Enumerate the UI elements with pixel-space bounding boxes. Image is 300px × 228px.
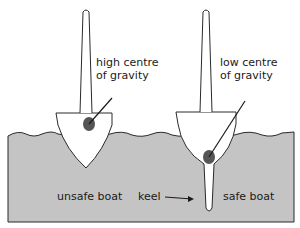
keel-label: keel <box>138 190 161 203</box>
low-cg-label-line1: low centre <box>220 56 277 69</box>
unsafe-boat-label: unsafe boat <box>57 190 122 203</box>
safe-boat-label: safe boat <box>223 190 274 203</box>
water <box>8 132 294 222</box>
unsafe-boat-mast <box>80 10 92 113</box>
high-cg-label: high centre of gravity <box>96 56 159 82</box>
low-cg-label-line2: of gravity <box>220 69 277 82</box>
low-cg-label: low centre of gravity <box>220 56 277 82</box>
high-cg-label-line1: high centre <box>96 56 159 69</box>
high-cg-label-line2: of gravity <box>96 69 159 82</box>
safe-boat-mast <box>200 10 212 112</box>
